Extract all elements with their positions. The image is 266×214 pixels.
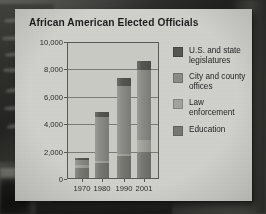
x-axis-tick-mark bbox=[124, 179, 125, 182]
x-axis-tick-label: 1970 bbox=[74, 184, 91, 193]
x-axis-tick-mark bbox=[144, 179, 145, 182]
x-axis-tick-mark bbox=[82, 179, 83, 182]
y-axis-tick-label: 4,000 bbox=[44, 120, 63, 129]
y-axis-tick-label: 10,000 bbox=[40, 38, 63, 47]
background-lower-band bbox=[36, 202, 172, 214]
y-axis-tick-label: 2,000 bbox=[44, 147, 63, 156]
legend-item-label: Education bbox=[189, 125, 225, 135]
legend-item-label: City and county offices bbox=[189, 72, 249, 91]
plot-area: 02,0004,0006,0008,00010,000 197019801990… bbox=[67, 42, 159, 179]
x-axis-tick-label: 2001 bbox=[136, 184, 153, 193]
legend-item[interactable]: Law enforcement bbox=[173, 98, 249, 117]
y-axis-tick-label: 8,000 bbox=[44, 65, 63, 74]
legend-item[interactable]: U.S. and state legislatures bbox=[173, 46, 249, 65]
legend-item[interactable]: City and county offices bbox=[173, 72, 249, 91]
chart-panel: African American Elected Officials 02,00… bbox=[15, 9, 252, 201]
x-axis-tick-label: 1980 bbox=[94, 184, 111, 193]
x-axis-tick-mark bbox=[102, 179, 103, 182]
chart-title: African American Elected Officials bbox=[29, 17, 198, 28]
x-axis-tick-label: 1990 bbox=[116, 184, 133, 193]
legend-swatch-education bbox=[173, 126, 183, 136]
y-axis-tick-mark bbox=[64, 179, 67, 180]
y-axis-tick-label: 0 bbox=[59, 175, 63, 184]
legend-item[interactable]: Education bbox=[173, 125, 249, 136]
legend-swatch-city-county-offices bbox=[173, 73, 183, 83]
legend-swatch-law-enforcement bbox=[173, 99, 183, 109]
chart-legend: U.S. and state legislaturesCity and coun… bbox=[173, 46, 249, 143]
plot-frame bbox=[67, 42, 159, 179]
legend-item-label: U.S. and state legislatures bbox=[189, 46, 249, 65]
legend-item-label: Law enforcement bbox=[189, 98, 249, 117]
y-axis-tick-label: 6,000 bbox=[44, 92, 63, 101]
legend-swatch-us-state-legislatures bbox=[173, 47, 183, 57]
